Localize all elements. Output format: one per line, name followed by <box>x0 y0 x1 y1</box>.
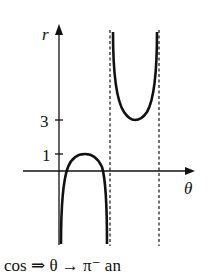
tick-label-3: 3 <box>40 113 49 130</box>
tick-label-1: 1 <box>42 147 51 164</box>
y-axis-label: r <box>42 26 49 43</box>
curve-branch-2 <box>113 32 157 120</box>
polar-graph <box>0 0 213 250</box>
x-axis-label: θ <box>184 180 192 197</box>
x-axis-arrow-icon <box>185 167 195 175</box>
y-axis-arrow-icon <box>55 24 63 35</box>
curve-branch-1 <box>61 154 107 244</box>
caption-text-cutoff: cos ⇒ θ → π⁻ an <box>4 255 121 274</box>
